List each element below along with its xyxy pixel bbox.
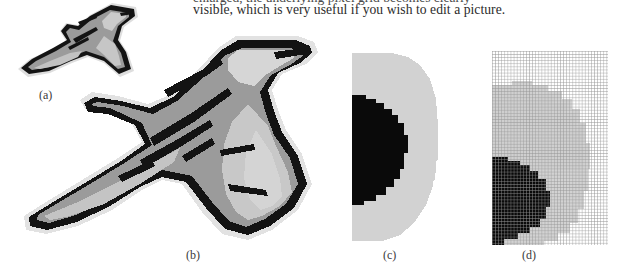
pixel-detail-no-grid xyxy=(352,53,440,241)
caption-panel-a: (a) xyxy=(39,88,52,103)
figure-panel-c xyxy=(352,53,440,241)
pixel-detail-with-grid xyxy=(492,51,608,245)
body-text-line: visible, which is very useful if you wis… xyxy=(193,2,505,18)
figure-panel-b xyxy=(22,34,334,244)
bird-illustration-magnified xyxy=(22,34,334,244)
caption-panel-d: (d) xyxy=(522,248,536,263)
caption-panel-c: (c) xyxy=(383,248,396,263)
caption-panel-b: (b) xyxy=(186,248,200,263)
figure-panel-d xyxy=(492,51,608,245)
